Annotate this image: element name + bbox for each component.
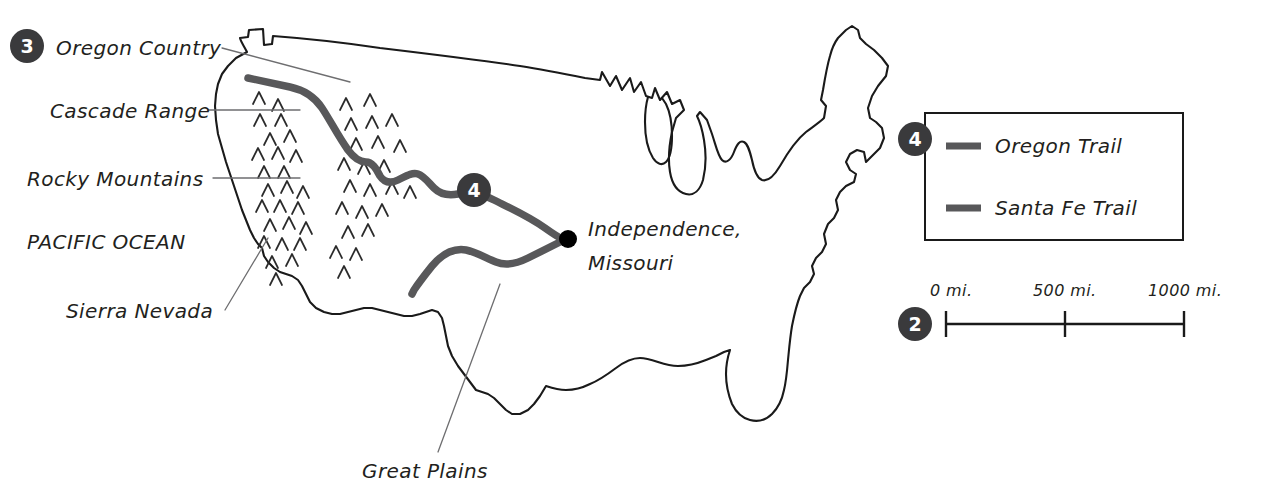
great-lakes-detail <box>645 97 672 164</box>
label-rocky-mountains: Rocky Mountains <box>27 167 204 191</box>
legend-label-oregon-trail: Oregon Trail <box>995 134 1122 158</box>
badge-label: 4 <box>467 179 480 201</box>
scale-label-0: 0 mi. <box>930 281 972 300</box>
santa-fe-trail-path <box>412 240 564 294</box>
independence-city-dot <box>559 230 577 248</box>
label-pacific-ocean: PACIFIC OCEAN <box>27 230 186 254</box>
map-canvas: Oregon Country Cascade Range Rocky Mount… <box>0 0 1273 495</box>
badge-trail-marker[interactable]: 4 <box>457 173 491 207</box>
label-cascade-range: Cascade Range <box>50 99 210 123</box>
badge-label: 3 <box>20 35 33 57</box>
map-figure: Oregon Country Cascade Range Rocky Mount… <box>0 0 1273 495</box>
badge-scale[interactable]: 2 <box>898 307 932 341</box>
leader-sierra-nevada <box>225 238 268 310</box>
badge-oregon-country[interactable]: 3 <box>10 29 44 63</box>
badge-legend[interactable]: 4 <box>898 122 932 156</box>
label-sierra-nevada: Sierra Nevada <box>66 299 213 323</box>
scale-label-1000: 1000 mi. <box>1148 281 1222 300</box>
label-independence-line1: Independence, <box>588 217 742 241</box>
legend-box <box>925 113 1183 240</box>
badge-label: 2 <box>908 313 921 335</box>
oregon-trail-path <box>248 78 564 240</box>
leader-great-plains <box>438 284 500 452</box>
badge-label: 4 <box>908 128 921 150</box>
scale-label-500: 500 mi. <box>1033 281 1097 300</box>
label-independence-line2: Missouri <box>588 251 674 275</box>
label-oregon-country: Oregon Country <box>56 36 222 60</box>
leader-oregon-country <box>222 48 350 82</box>
label-great-plains: Great Plains <box>362 459 488 483</box>
us-outline <box>215 26 888 421</box>
scale-bar: 0 mi. 500 mi. 1000 mi. <box>930 281 1222 337</box>
legend-label-santa-fe-trail: Santa Fe Trail <box>995 196 1137 220</box>
